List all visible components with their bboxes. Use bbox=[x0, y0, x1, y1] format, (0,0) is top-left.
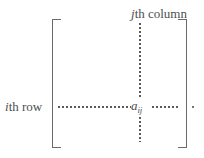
matrix-right-bracket bbox=[178, 19, 187, 148]
row-label-suffix: th row bbox=[9, 99, 43, 114]
column-dotted-guide-bottom bbox=[139, 116, 141, 142]
entry-subscript: ij bbox=[138, 105, 143, 115]
trailing-ellipsis-dot bbox=[192, 106, 194, 108]
row-dotted-guide-right bbox=[151, 106, 178, 108]
row-dotted-guide-left bbox=[57, 106, 131, 108]
column-dotted-guide-top bbox=[139, 22, 141, 98]
matrix-entry-diagram: ith row jth column aij bbox=[0, 0, 204, 158]
matrix-entry-aij: aij bbox=[131, 99, 142, 115]
ith-row-label: ith row bbox=[5, 100, 42, 113]
matrix-left-bracket bbox=[52, 19, 61, 148]
